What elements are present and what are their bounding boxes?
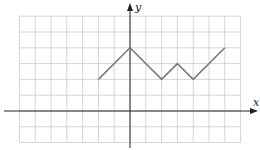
coordinate-graph: x y bbox=[0, 0, 260, 150]
x-axis-label: x bbox=[253, 96, 260, 109]
axes: x y bbox=[4, 1, 260, 148]
y-axis-arrow-icon bbox=[127, 3, 133, 11]
y-axis-label: y bbox=[134, 1, 142, 14]
chart-svg: x y bbox=[0, 0, 260, 150]
